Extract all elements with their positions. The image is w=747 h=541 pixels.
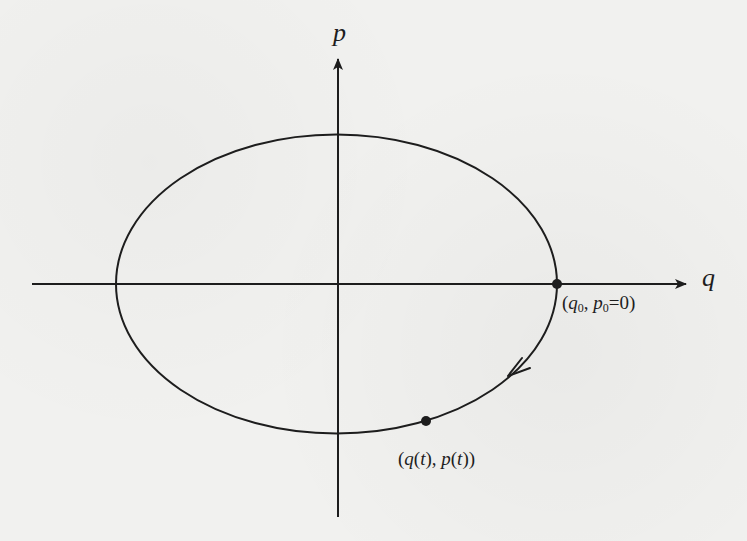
phase-portrait-svg [0, 0, 747, 541]
current-point-marker [421, 416, 431, 426]
current-point-label: (q(t), p(t)) [398, 448, 475, 470]
initial-point-label: (q0, p0=0) [562, 292, 635, 316]
initial-point-marker [552, 279, 562, 289]
q-axis-label: q [702, 263, 715, 293]
p-axis-label: p [333, 18, 346, 48]
phase-space-figure: p q (q0, p0=0) (q(t), p(t)) [0, 0, 747, 541]
